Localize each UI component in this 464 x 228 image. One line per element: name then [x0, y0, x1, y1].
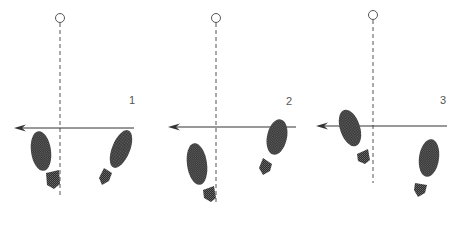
panel-1: 1 [14, 14, 137, 198]
right-heel-shape [259, 158, 272, 175]
left-heel-shape [357, 149, 370, 164]
right-footprint-icon [414, 138, 442, 197]
left-sole-shape [184, 142, 210, 186]
right-heel-shape [414, 183, 427, 197]
reference-point-circle-icon [369, 11, 378, 20]
panel-number-label: 3 [440, 94, 446, 106]
right-footprint-icon [99, 127, 137, 185]
footprint-diagram: 123 [0, 0, 464, 228]
right-footprint-icon [259, 117, 291, 175]
panel-2: 2 [168, 14, 296, 206]
panels-group: 123 [14, 11, 447, 206]
right-heel-shape [99, 168, 112, 185]
reference-point-circle-icon [212, 14, 221, 23]
reference-point-circle-icon [56, 14, 65, 23]
right-sole-shape [416, 138, 441, 178]
left-footprint-icon [184, 142, 216, 202]
left-footprint-icon [28, 130, 60, 189]
panel-number-label: 2 [286, 95, 292, 107]
left-heel-shape [203, 186, 216, 202]
right-sole-shape [263, 117, 290, 156]
right-sole-shape [105, 127, 137, 171]
left-heel-shape [46, 170, 60, 189]
panel-3: 3 [316, 11, 447, 198]
panel-number-label: 1 [129, 94, 135, 106]
left-footprint-icon [335, 107, 370, 164]
left-sole-shape [28, 130, 53, 172]
left-sole-shape [335, 107, 366, 149]
